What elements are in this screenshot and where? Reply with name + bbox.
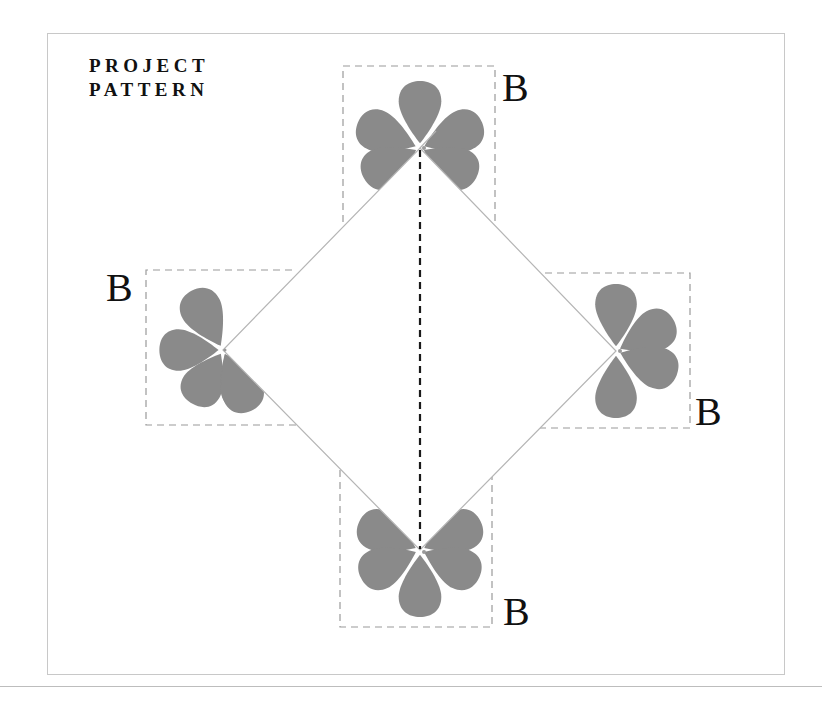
label-b-bottom: B [503, 592, 530, 632]
label-b-top: B [502, 68, 529, 108]
pattern-diagram [0, 0, 822, 713]
label-b-left: B [106, 268, 133, 308]
label-b-right: B [695, 392, 722, 432]
